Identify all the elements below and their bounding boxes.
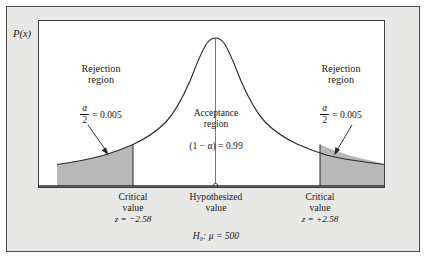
left-critical-z-value: z = −2.58 — [93, 214, 173, 224]
left-alpha-equals: = 0.005 — [92, 110, 121, 121]
left-alpha-fraction: α 2 — [80, 104, 89, 126]
right-critical-z-value: z = +2.58 — [280, 214, 360, 224]
right-alpha-denominator: 2 — [321, 115, 328, 125]
right-alpha-leader-line — [336, 125, 352, 152]
left-alpha-numerator: α — [81, 104, 88, 114]
left-critical-value-caption: Critical value z = −2.58 — [93, 192, 173, 225]
right-rejection-shading — [320, 145, 384, 187]
left-alpha-arrowhead — [102, 147, 109, 155]
left-rejection-region-label: Rejection region — [58, 63, 144, 86]
null-hypothesis-label: H₀: μ = 500 — [166, 231, 266, 242]
right-alpha-equals: = 0.005 — [332, 110, 361, 121]
left-critical-line2: value — [93, 203, 173, 214]
right-rejection-line1: Rejection — [298, 63, 384, 74]
right-critical-line2: value — [280, 203, 360, 214]
right-rejection-line2: region — [298, 74, 384, 85]
left-alpha-annotation: α 2 = 0.005 — [58, 103, 144, 126]
hypothesized-value-caption: Hypothesized value — [166, 192, 266, 213]
right-alpha-annotation: α 2 = 0.005 — [298, 103, 384, 126]
left-alpha-leader-line — [88, 125, 107, 152]
right-critical-value-caption: Critical value z = +2.58 — [280, 192, 360, 225]
hypothesis-test-figure: P(x) Rejection region α — [0, 0, 430, 262]
right-alpha-numerator: α — [321, 104, 328, 114]
acceptance-line2: region — [166, 119, 266, 130]
right-alpha-fraction: α 2 — [320, 104, 329, 126]
right-rejection-region-label: Rejection region — [298, 63, 384, 86]
hypothesized-line2: value — [166, 203, 266, 214]
left-rejection-line1: Rejection — [58, 63, 144, 74]
confidence-level-label: (1 − α) = 0.99 — [156, 141, 276, 152]
left-rejection-shading — [57, 145, 133, 187]
left-alpha-denominator: 2 — [81, 115, 88, 125]
acceptance-region-label: Acceptance region — [166, 108, 266, 129]
left-rejection-line2: region — [58, 74, 144, 85]
curve-layer — [0, 0, 430, 262]
